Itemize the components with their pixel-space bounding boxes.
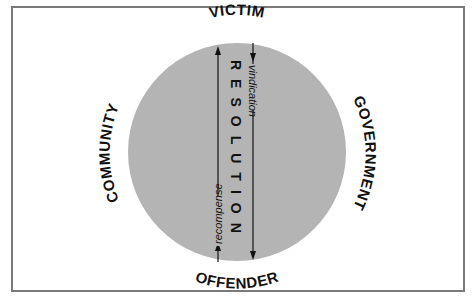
resolution-diagram: vindication recompense RESOLUTION VICTIM… bbox=[0, 0, 475, 302]
community-label: COMMUNITY bbox=[96, 101, 122, 205]
resolution-label: RESOLUTION bbox=[228, 60, 244, 242]
government-label: GOVERNMENT bbox=[350, 93, 380, 213]
victim-label: VICTIM bbox=[208, 1, 267, 21]
offender-label: OFFENDER bbox=[194, 268, 281, 292]
recompense-label: recompense bbox=[212, 183, 224, 244]
vindication-label: vindication bbox=[247, 65, 259, 117]
